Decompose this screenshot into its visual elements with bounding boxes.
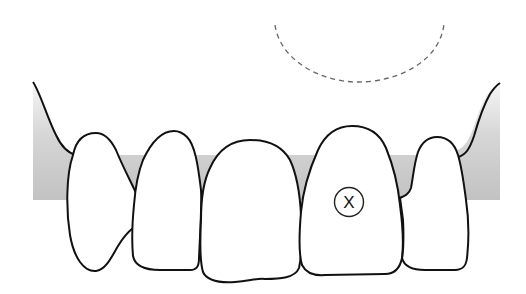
diagram-svg: X — [0, 0, 526, 294]
marker-label: X — [343, 193, 354, 212]
tooth-1 — [67, 133, 137, 271]
tooth-3 — [200, 140, 301, 282]
dental-diagram: X — [0, 0, 526, 294]
tooth-2 — [132, 131, 201, 270]
x-marker: X — [335, 188, 364, 217]
dashed-arc — [275, 24, 444, 82]
